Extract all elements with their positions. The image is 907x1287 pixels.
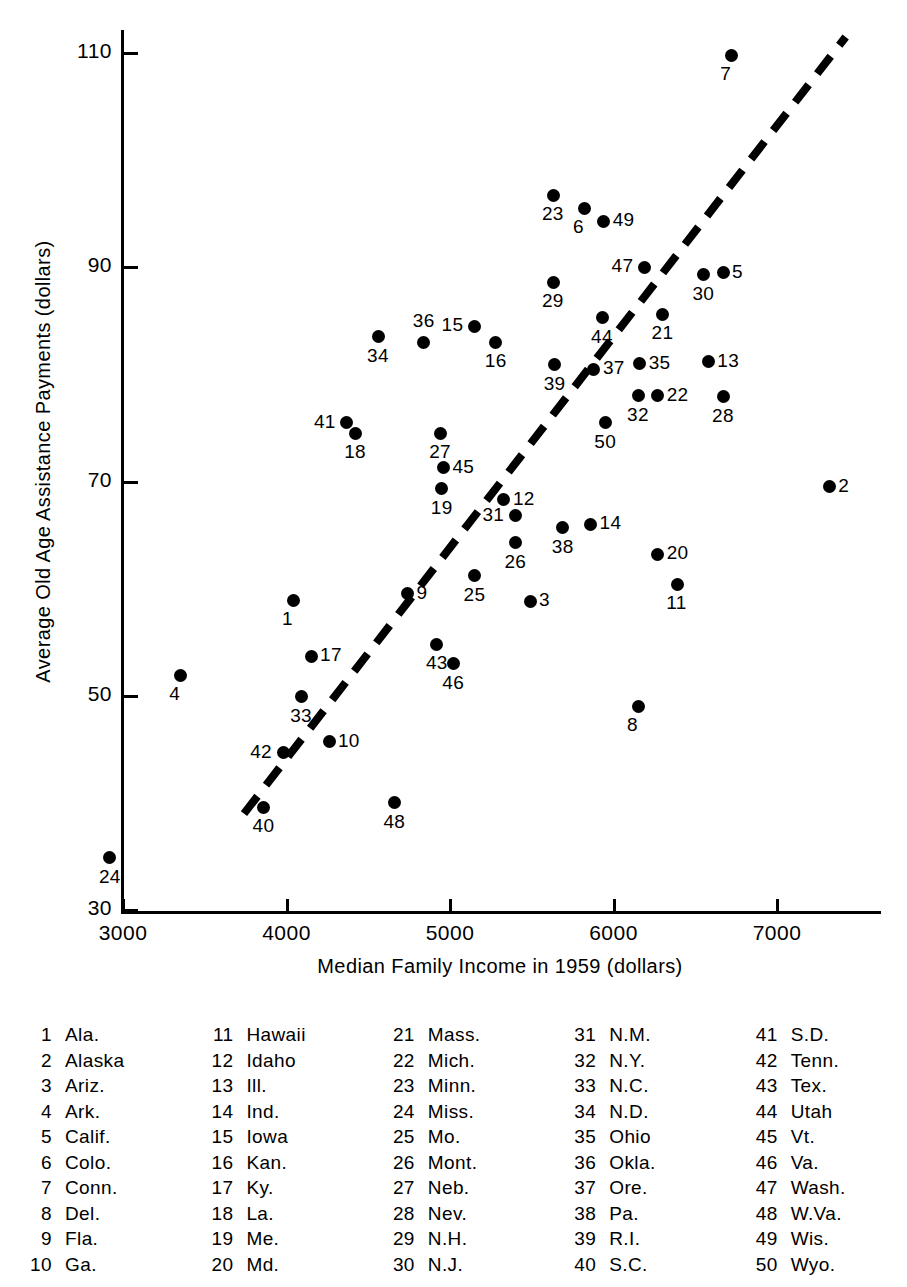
y-tick-90: [124, 266, 138, 269]
data-point-50[interactable]: [599, 416, 612, 429]
data-point-16[interactable]: [489, 336, 502, 349]
legend-item-49: 49Wis.: [744, 1226, 907, 1252]
legend-item-number: 33: [562, 1073, 596, 1099]
data-point-8[interactable]: [632, 700, 645, 713]
legend-item-14: 14Ind.: [199, 1099, 362, 1125]
data-point-45[interactable]: [437, 461, 450, 474]
data-point-29[interactable]: [547, 276, 560, 289]
y-axis-title: Average Old Age Assistance Payments (dol…: [32, 227, 55, 697]
data-point-2[interactable]: [823, 480, 836, 493]
data-point-21[interactable]: [656, 308, 669, 321]
data-point-13[interactable]: [702, 355, 715, 368]
legend-item-name: Ill.: [233, 1073, 267, 1099]
data-point-3[interactable]: [524, 595, 537, 608]
legend-item-name: N.C.: [596, 1073, 649, 1099]
data-point-37[interactable]: [587, 363, 600, 376]
data-point-40[interactable]: [257, 801, 270, 814]
data-point-22[interactable]: [651, 389, 664, 402]
data-point-17[interactable]: [305, 650, 318, 663]
legend-item-22: 22Mich.: [381, 1048, 544, 1074]
data-point-label-33: 33: [290, 705, 312, 727]
legend-item-name: Colo.: [52, 1150, 111, 1176]
legend-item-19: 19Me.: [199, 1226, 362, 1252]
legend-item-number: 14: [199, 1099, 233, 1125]
data-point-43[interactable]: [430, 638, 443, 651]
scatter-chart: 30507090110 30004000500060007000 1234567…: [0, 0, 907, 1000]
legend-item-8: 8Del.: [18, 1201, 181, 1227]
x-tick-3000: [122, 899, 125, 912]
legend-item-number: 7: [18, 1175, 52, 1201]
data-point-23[interactable]: [547, 189, 560, 202]
data-point-label-12: 12: [513, 488, 535, 510]
data-point-46[interactable]: [447, 657, 460, 670]
data-point-4[interactable]: [174, 669, 187, 682]
data-point-label-37: 37: [603, 357, 625, 379]
legend-item-number: 26: [381, 1150, 415, 1176]
data-point-34[interactable]: [372, 330, 385, 343]
data-point-38[interactable]: [556, 521, 569, 534]
legend-item-28: 28Nev.: [381, 1201, 544, 1227]
data-point-label-4: 4: [169, 683, 180, 705]
data-point-5[interactable]: [717, 266, 730, 279]
legend-item-number: 48: [744, 1201, 778, 1227]
data-point-31[interactable]: [509, 509, 522, 522]
data-point-18[interactable]: [349, 427, 362, 440]
legend-item-name: Utah: [778, 1099, 833, 1125]
legend-item-number: 9: [18, 1226, 52, 1252]
legend-item-23: 23Minn.: [381, 1073, 544, 1099]
legend-item-number: 35: [562, 1124, 596, 1150]
data-point-24[interactable]: [103, 851, 116, 864]
data-point-label-45: 45: [452, 456, 474, 478]
legend-item-20: 20Md.: [199, 1252, 362, 1278]
data-point-10[interactable]: [323, 735, 336, 748]
data-point-26[interactable]: [509, 536, 522, 549]
data-point-47[interactable]: [638, 261, 651, 274]
data-point-49[interactable]: [597, 215, 610, 228]
legend-item-name: Ariz.: [52, 1073, 105, 1099]
legend-item-name: Ky.: [233, 1175, 273, 1201]
data-point-28[interactable]: [717, 390, 730, 403]
legend-item-40: 40S.C.: [562, 1252, 725, 1278]
data-point-7[interactable]: [725, 49, 738, 62]
data-point-48[interactable]: [388, 796, 401, 809]
legend-item-21: 21Mass.: [381, 1022, 544, 1048]
data-point-33[interactable]: [295, 690, 308, 703]
data-point-30[interactable]: [697, 268, 710, 281]
legend-column-4: 31N.M.32N.Y.33N.C.34N.D.35Ohio36Okla.37O…: [544, 1022, 725, 1277]
legend-item-name: Mont.: [415, 1150, 478, 1176]
data-point-label-31: 31: [482, 504, 504, 526]
data-point-9[interactable]: [401, 587, 414, 600]
legend-item-name: Tex.: [778, 1073, 827, 1099]
legend-item-number: 10: [18, 1252, 52, 1278]
data-point-42[interactable]: [277, 746, 290, 759]
data-point-1[interactable]: [287, 594, 300, 607]
data-point-15[interactable]: [468, 320, 481, 333]
data-point-19[interactable]: [435, 482, 448, 495]
data-point-label-19: 19: [431, 497, 453, 519]
data-point-label-11: 11: [666, 592, 686, 614]
data-point-27[interactable]: [434, 427, 447, 440]
legend-item-43: 43Tex.: [744, 1073, 907, 1099]
x-tick-7000: [776, 899, 779, 912]
data-point-36[interactable]: [417, 336, 430, 349]
legend-item-number: 18: [199, 1201, 233, 1227]
data-point-35[interactable]: [633, 357, 646, 370]
legend-item-name: N.D.: [596, 1099, 649, 1125]
legend-item-number: 45: [744, 1124, 778, 1150]
legend-item-number: 2: [18, 1048, 52, 1074]
legend-item-name: Iowa: [233, 1124, 288, 1150]
data-point-label-27: 27: [429, 441, 451, 463]
data-point-32[interactable]: [632, 389, 645, 402]
data-point-label-42: 42: [250, 741, 272, 763]
data-point-25[interactable]: [468, 569, 481, 582]
data-point-11[interactable]: [671, 578, 684, 591]
data-point-39[interactable]: [548, 358, 561, 371]
legend-item-name: Mich.: [415, 1048, 475, 1074]
legend-item-number: 21: [381, 1022, 415, 1048]
data-point-44[interactable]: [596, 311, 609, 324]
data-point-6[interactable]: [578, 202, 591, 215]
legend-item-45: 45Vt.: [744, 1124, 907, 1150]
data-point-20[interactable]: [651, 548, 664, 561]
data-point-14[interactable]: [584, 518, 597, 531]
data-point-label-44: 44: [591, 326, 613, 348]
